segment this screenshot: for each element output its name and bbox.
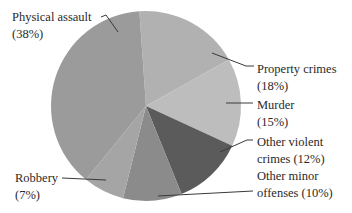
label-robbery-value: (7%) [15, 187, 58, 204]
label-other-minor-offenses: Other minor offenses (10%) [257, 168, 333, 202]
label-property-crimes: Property crimes (18%) [257, 61, 337, 95]
label-other-minor-value: offenses (10%) [257, 185, 333, 202]
label-murder-name: Murder [257, 97, 295, 114]
label-property-crimes-name: Property crimes [257, 61, 337, 78]
label-robbery: Robbery (7%) [15, 170, 58, 204]
label-physical-assault-name: Physical assault [12, 9, 92, 26]
label-physical-assault-value: (38%) [12, 26, 92, 43]
label-property-crimes-value: (18%) [257, 78, 337, 95]
label-robbery-name: Robbery [15, 170, 58, 187]
label-murder: Murder (15%) [257, 97, 295, 131]
label-physical-assault: Physical assault (38%) [12, 9, 92, 43]
label-other-violent-value: crimes (12%) [257, 151, 325, 168]
label-other-violent-name: Other violent [257, 134, 325, 151]
label-other-minor-name: Other minor [257, 168, 333, 185]
label-murder-value: (15%) [257, 114, 295, 131]
label-other-violent-crimes: Other violent crimes (12%) [257, 134, 325, 168]
